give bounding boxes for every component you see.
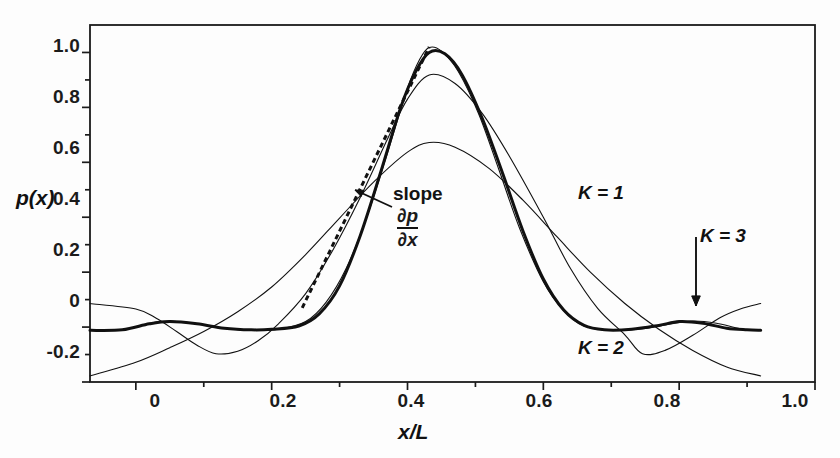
ytick-label-0: 0 xyxy=(24,290,80,312)
y-axis-title: p(x) xyxy=(16,186,55,210)
ytick-label-1.0: 1.0 xyxy=(24,35,80,57)
curve-label-k1: K = 1 xyxy=(578,182,624,204)
ytick-label-0.6: 0.6 xyxy=(24,137,80,159)
partial-derivative-fraction: ∂p ∂x xyxy=(397,206,418,250)
k3-arrow xyxy=(692,237,701,306)
curve-label-k2: K = 2 xyxy=(578,337,624,359)
x-axis-title: x/L xyxy=(398,420,428,444)
xtick-label-0: 0 xyxy=(125,390,185,412)
tangent-slope-line xyxy=(302,47,429,308)
xtick-label-0.2: 0.2 xyxy=(253,390,313,412)
xtick-label-0.4: 0.4 xyxy=(381,390,441,412)
slope-annotation: slope ∂p ∂x xyxy=(393,184,503,250)
figure-canvas: 1.0 0.8 0.6 0.4 0.2 0 -0.2 0 0.2 0.4 0.6… xyxy=(0,0,840,458)
ytick-label--0.2: -0.2 xyxy=(16,341,80,363)
ytick-label-0.8: 0.8 xyxy=(24,86,80,108)
curve-label-k3: K = 3 xyxy=(700,225,746,247)
xtick-label-1.0: 1.0 xyxy=(765,390,825,412)
slope-annotation-text: slope xyxy=(393,184,503,203)
xtick-label-0.8: 0.8 xyxy=(637,390,697,412)
partial-numerator: ∂p xyxy=(397,206,418,227)
xtick-label-0.6: 0.6 xyxy=(509,390,569,412)
partial-denominator: ∂x xyxy=(397,227,418,251)
tangent-dashed-line xyxy=(302,47,429,308)
ytick-label-0.2: 0.2 xyxy=(24,239,80,261)
